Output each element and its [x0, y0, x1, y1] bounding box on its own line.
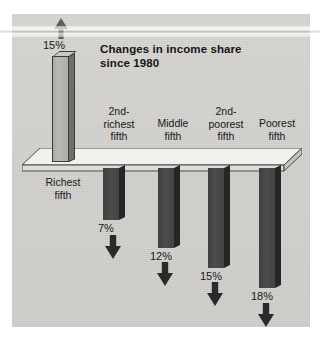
label-middle-fifth: Middle fifth: [146, 117, 200, 142]
bar-richest-fifth: [52, 56, 69, 162]
down-arrow-icon-poorest: [256, 303, 276, 327]
bar-middle-front-face: [158, 168, 174, 248]
label-richest-fifth: Richest fifth: [30, 176, 96, 201]
label-second-poorest-line2: poorest: [195, 118, 257, 131]
label-richest-line2: fifth: [30, 189, 96, 202]
label-second-richest-line2: richest: [88, 118, 150, 131]
label-second-poorest-fifth: 2nd- poorest fifth: [195, 105, 257, 143]
chart-title: Changes in income share since 1980: [100, 42, 290, 70]
label-second-richest-fifth: 2nd- richest fifth: [88, 105, 150, 143]
value-label-second-richest: 7%: [98, 222, 114, 234]
down-arrow-icon-second-richest: [103, 235, 123, 259]
bar-middle-side-face: [174, 165, 180, 248]
label-middle-line2: fifth: [146, 130, 200, 143]
value-label-middle: 12%: [150, 250, 172, 262]
label-poorest-line2: fifth: [249, 130, 305, 143]
bar-second-richest-side-face: [119, 165, 125, 220]
label-richest-line1: Richest: [30, 176, 96, 189]
label-middle-line1: Middle: [146, 117, 200, 130]
value-label-second-poorest: 15%: [200, 270, 222, 282]
up-arrow-icon: [50, 17, 72, 39]
bar-second-poorest-fifth: [208, 168, 224, 268]
label-poorest-fifth: Poorest fifth: [249, 117, 305, 142]
label-second-richest-line1: 2nd-: [88, 105, 150, 118]
chart-title-line2: since 1980: [100, 56, 290, 70]
bar-second-richest-fifth: [103, 168, 119, 220]
down-arrow-icon-middle: [155, 262, 175, 286]
label-second-poorest-line1: 2nd-: [195, 105, 257, 118]
value-label-richest: 15%: [43, 39, 65, 51]
label-second-poorest-line3: fifth: [195, 130, 257, 143]
bar-second-richest-front-face: [103, 168, 119, 220]
value-label-poorest: 18%: [251, 290, 273, 302]
bar-second-poorest-front-face: [208, 168, 224, 268]
bar-richest-side-face: [69, 53, 75, 162]
income-share-figure: Changes in income share since 1980 15% 2…: [0, 0, 320, 337]
bar-poorest-side-face: [275, 165, 281, 288]
down-arrow-icon-second-poorest: [205, 282, 225, 306]
bar-richest-front-face: [52, 56, 69, 162]
label-poorest-line1: Poorest: [249, 117, 305, 130]
label-second-richest-line3: fifth: [88, 130, 150, 143]
bar-middle-fifth: [158, 168, 174, 248]
bar-poorest-fifth: [259, 168, 275, 288]
bar-poorest-front-face: [259, 168, 275, 288]
chart-title-line1: Changes in income share: [100, 42, 290, 56]
bar-second-poorest-side-face: [224, 165, 230, 268]
